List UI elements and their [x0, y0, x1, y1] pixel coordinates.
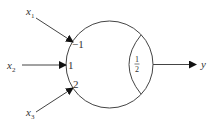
- threshold-denominator: 2: [135, 65, 139, 74]
- neuron-circle: [66, 21, 153, 108]
- input-label-x3: x3: [25, 106, 35, 121]
- input-label-x1: x1: [25, 5, 35, 20]
- input-arrow-x1: [36, 18, 73, 42]
- weight-x2: 1: [68, 59, 74, 71]
- weight-x3: 2: [73, 78, 79, 90]
- output-label-y: y: [200, 58, 206, 70]
- input-label-x2: x2: [6, 59, 16, 74]
- weight-x1: −1: [72, 38, 84, 50]
- threshold-numerator: 1: [135, 55, 139, 64]
- neuron-diagram: x1 x2 x3 −1 1 2 1 2 y: [0, 0, 216, 123]
- input-arrow-x3: [36, 88, 73, 112]
